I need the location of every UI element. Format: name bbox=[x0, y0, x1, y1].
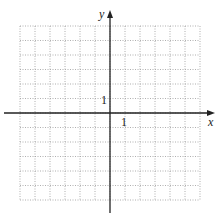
x-axis-label: x bbox=[207, 115, 214, 129]
coordinate-plane: y x 1 1 bbox=[0, 0, 217, 215]
y-axis-label: y bbox=[98, 7, 105, 21]
y-tick-label: 1 bbox=[101, 93, 107, 107]
x-tick-label: 1 bbox=[121, 115, 127, 129]
y-axis-arrow-icon bbox=[107, 10, 113, 18]
